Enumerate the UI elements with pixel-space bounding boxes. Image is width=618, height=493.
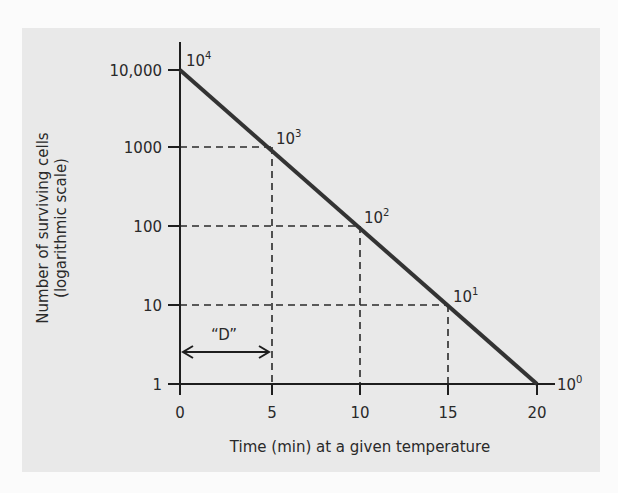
svg-text:101: 101	[453, 286, 478, 306]
dashed-guides	[180, 147, 448, 384]
svg-text:5: 5	[267, 404, 277, 422]
svg-text:100: 100	[557, 374, 582, 394]
svg-text:“D”: “D”	[211, 326, 237, 344]
svg-text:100: 100	[133, 218, 162, 236]
svg-text:Number of surviving cells: Number of surviving cells	[34, 132, 52, 323]
svg-text:0: 0	[175, 404, 185, 422]
svg-text:102: 102	[364, 207, 389, 227]
svg-text:10: 10	[350, 404, 369, 422]
svg-text:104: 104	[186, 50, 211, 70]
decimal-reduction-chart: 10,000 1000 100 10 1 0 5 10 15 20 Time (…	[0, 0, 618, 493]
svg-text:10: 10	[143, 297, 162, 315]
svg-text:10,000: 10,000	[110, 62, 163, 80]
x-axis-title: Time (min) at a given temperature	[229, 438, 490, 456]
x-tick-labels: 0 5 10 15 20	[175, 404, 546, 422]
d-value-annotation: “D”	[183, 326, 269, 358]
svg-text:103: 103	[276, 128, 301, 148]
svg-text:1: 1	[152, 376, 162, 394]
y-tick-labels: 10,000 1000 100 10 1	[110, 62, 163, 394]
svg-text:(logarithmic scale): (logarithmic scale)	[52, 158, 70, 298]
svg-text:15: 15	[438, 404, 457, 422]
svg-text:20: 20	[527, 404, 546, 422]
y-axis-title: Number of surviving cells (logarithmic s…	[34, 132, 70, 323]
point-labels: 104 103 102 101 100	[186, 50, 582, 394]
svg-text:1000: 1000	[124, 139, 162, 157]
